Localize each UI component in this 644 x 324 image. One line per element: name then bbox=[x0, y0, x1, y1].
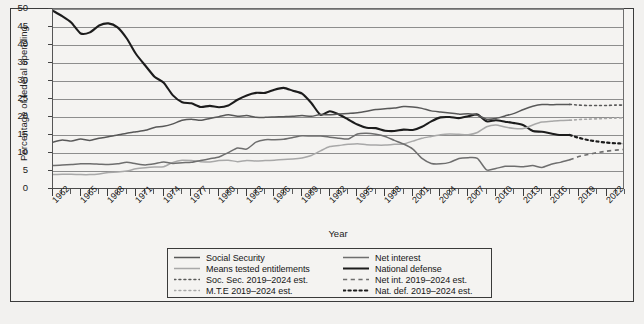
legend-swatch-icon bbox=[174, 275, 200, 284]
legend-label: Net interest bbox=[375, 253, 420, 263]
legend-label: M.T.E 2019–2024 est. bbox=[206, 286, 293, 296]
y-tick-mark bbox=[48, 8, 52, 9]
chart-legend: Social Security Means tested entitlement… bbox=[167, 248, 492, 298]
plot-wrapper: 50454035302520151050 1962196519681971197… bbox=[52, 8, 624, 190]
legend-item: Soc. Sec. 2019–2024 est. bbox=[174, 274, 339, 285]
legend-label: Means tested entitlements bbox=[206, 264, 310, 274]
estimate-soc-sec-2019-2024-est- bbox=[570, 104, 624, 105]
y-tick-label: 35 bbox=[0, 56, 28, 67]
y-tick-label: 30 bbox=[0, 74, 28, 85]
legend-label: Soc. Sec. 2019–2024 est. bbox=[206, 275, 308, 285]
estimate-net-int-2019-2024-est- bbox=[570, 149, 624, 159]
legend-swatch-icon bbox=[343, 264, 369, 273]
y-tick-mark bbox=[48, 98, 52, 99]
y-tick-mark bbox=[48, 116, 52, 117]
x-axis-title: Year bbox=[52, 228, 624, 239]
legend-swatch-icon bbox=[343, 275, 369, 284]
estimate-nat-def-2019-2024-est- bbox=[570, 135, 624, 144]
legend-label: National defense bbox=[375, 264, 442, 274]
plot-area bbox=[52, 8, 624, 188]
legend-item: Nat. def. 2019–2024 est. bbox=[343, 285, 493, 296]
chart-figure: Percentage of federal spending 504540353… bbox=[0, 0, 644, 324]
legend-label: Net int. 2019–2024 est. bbox=[375, 275, 467, 285]
estimate-m-t-e-2019-2024-est- bbox=[570, 118, 624, 121]
legend-swatch-icon bbox=[343, 286, 369, 295]
y-tick-label: 5 bbox=[0, 164, 28, 175]
legend-swatch-icon bbox=[174, 286, 200, 295]
y-tick-mark bbox=[48, 80, 52, 81]
legend-item: Net int. 2019–2024 est. bbox=[343, 274, 493, 285]
y-tick-label: 0 bbox=[0, 182, 28, 193]
y-tick-mark bbox=[48, 44, 52, 45]
legend-item: Means tested entitlements bbox=[174, 263, 339, 274]
legend-swatch-icon bbox=[343, 253, 369, 262]
y-tick-mark bbox=[48, 26, 52, 27]
legend-item: M.T.E 2019–2024 est. bbox=[174, 285, 339, 296]
y-tick-label: 40 bbox=[0, 38, 28, 49]
legend-column-right: Net interest National defense Net int. 2… bbox=[343, 252, 493, 296]
y-tick-label: 20 bbox=[0, 110, 28, 121]
y-tick-label: 10 bbox=[0, 146, 28, 157]
y-tick-mark bbox=[48, 152, 52, 153]
legend-item: National defense bbox=[343, 263, 493, 274]
y-tick-mark bbox=[48, 170, 52, 171]
series-net-interest bbox=[53, 133, 570, 170]
legend-column-left: Social Security Means tested entitlement… bbox=[174, 252, 339, 296]
legend-swatch-icon bbox=[174, 264, 200, 273]
legend-label: Social Security bbox=[206, 253, 265, 263]
series-lines bbox=[53, 9, 624, 188]
legend-label: Nat. def. 2019–2024 est. bbox=[375, 286, 472, 296]
series-means-tested-entitlements bbox=[53, 120, 570, 174]
y-tick-label: 15 bbox=[0, 128, 28, 139]
y-tick-label: 50 bbox=[0, 2, 28, 13]
legend-item: Social Security bbox=[174, 252, 339, 263]
y-tick-label: 45 bbox=[0, 20, 28, 31]
y-tick-mark bbox=[48, 62, 52, 63]
legend-swatch-icon bbox=[174, 253, 200, 262]
y-tick-mark bbox=[48, 134, 52, 135]
legend-item: Net interest bbox=[343, 252, 493, 263]
y-tick-label: 25 bbox=[0, 92, 28, 103]
